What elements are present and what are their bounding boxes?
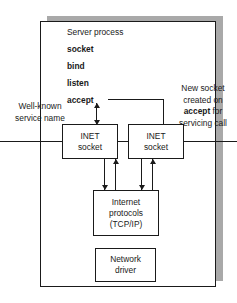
listen-call-label: listen <box>67 78 89 90</box>
connector-accept-to-new-socket-vertical <box>163 99 164 125</box>
arrow-protocols-up-to-right-socket <box>149 159 156 190</box>
socket-call-label: socket <box>67 44 94 56</box>
new-socket-annotation: New socket created on accept for servici… <box>170 83 236 129</box>
new-socket-annotation-accept: accept <box>184 106 211 116</box>
internet-protocols-box: Internet protocols (TCP/IP) <box>93 190 159 236</box>
new-socket-annotation-part1: New socket created on <box>181 83 224 105</box>
connector-right-socket-outward <box>183 141 237 142</box>
connector-accept-to-new-socket-horizontal <box>108 99 164 100</box>
socket-architecture-diagram: Server process socket bind listen accept… <box>0 0 237 303</box>
network-driver-box: Network driver <box>95 248 156 282</box>
arrow-right-socket-down-to-protocols <box>138 159 145 190</box>
bind-call-label: bind <box>67 61 85 73</box>
server-process-label: Server process <box>67 27 123 39</box>
inet-socket-connected-box: INET socket <box>128 124 184 159</box>
well-known-service-name-annotation: Well-known service name <box>2 101 78 124</box>
arrow-left-socket-down-to-protocols <box>101 159 108 190</box>
arrow-protocols-up-to-left-socket <box>112 159 119 190</box>
inet-socket-listening-box: INET socket <box>62 124 118 159</box>
connector-left-socket-to-service-name <box>0 141 63 142</box>
arrow-accept-to-listening-socket <box>93 103 100 125</box>
